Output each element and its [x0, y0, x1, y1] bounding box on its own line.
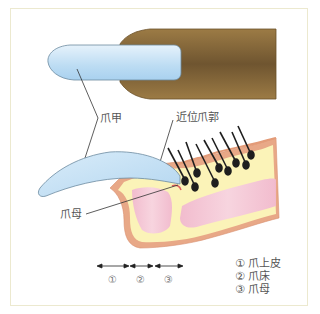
legend-item-2: ② 爪床 — [235, 270, 281, 283]
leader-nail-plate — [77, 69, 98, 158]
nail-plate-top — [48, 45, 181, 80]
region-arrows — [97, 264, 183, 268]
region-marker-3: ③ — [164, 275, 173, 285]
label-nail-matrix: 爪母 — [60, 209, 81, 220]
label-nail-plate: 爪甲 — [100, 113, 121, 124]
legend-item-1: ① 爪上皮 — [235, 257, 281, 270]
legend: ① 爪上皮 ② 爪床 ③ 爪母 — [235, 257, 281, 296]
label-proximal-nail-fold: 近位爪郭 — [176, 112, 218, 123]
region-marker-1: ① — [108, 275, 117, 285]
finger-top-view — [48, 29, 276, 99]
region-marker-2: ② — [136, 275, 145, 285]
legend-item-3: ③ 爪母 — [235, 283, 281, 296]
finger-side-view — [38, 138, 279, 248]
leader-proximal-fold — [160, 120, 173, 162]
